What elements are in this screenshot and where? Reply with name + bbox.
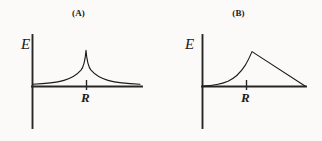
panel-a-plot [0,0,161,141]
panel-b-plot [161,0,322,141]
panel-b: (B) E R [161,0,322,141]
panel-b-curve [203,52,305,86]
panel-a-curve [33,50,140,84]
figure-root: (A) E R (B) E R [0,0,322,141]
panel-a: (A) E R [0,0,161,141]
